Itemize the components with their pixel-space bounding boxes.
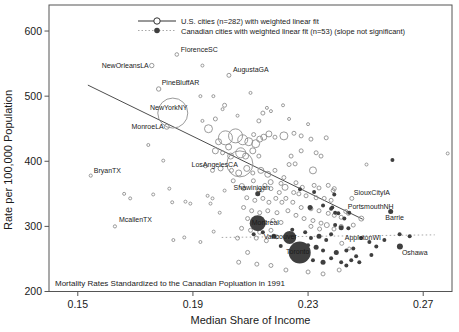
us-data-point — [279, 220, 283, 224]
x-tick-label: 0.19 — [183, 298, 204, 310]
y-tick-label: 300 — [24, 220, 42, 232]
us-data-point — [273, 135, 277, 139]
y-tick-label: 200 — [24, 285, 42, 297]
us-data-point — [288, 117, 291, 120]
us-data-point — [251, 179, 255, 183]
city-label: Barrie — [385, 214, 404, 221]
x-tick-label: 0.15 — [68, 298, 89, 310]
us-data-point — [236, 114, 239, 117]
ca-data-point — [333, 223, 337, 227]
ca-data-point — [347, 211, 351, 215]
us-data-point — [209, 202, 212, 205]
us-data-point — [306, 270, 310, 274]
us-data-point — [199, 95, 202, 98]
us-data-point — [171, 201, 174, 204]
us-data-point — [299, 149, 303, 153]
us-data-point — [291, 200, 295, 204]
ca-data-point — [334, 250, 339, 255]
us-data-point — [446, 152, 449, 155]
us-data-point — [282, 184, 288, 190]
ca-data-point — [342, 217, 346, 221]
us-data-point — [249, 228, 253, 232]
us-data-point — [227, 73, 231, 77]
ca-data-point — [332, 192, 336, 196]
ca-data-point — [344, 263, 348, 267]
us-data-point — [318, 227, 322, 231]
ca-data-point — [336, 211, 340, 215]
y-tick-label: 500 — [24, 90, 42, 102]
us-data-point — [236, 236, 240, 240]
us-data-point — [242, 206, 246, 210]
us-data-point — [286, 209, 290, 213]
us-data-point — [317, 186, 321, 190]
us-data-point — [253, 198, 257, 202]
ca-data-point — [382, 238, 386, 242]
ca-data-point — [374, 245, 378, 249]
us-data-point — [251, 171, 255, 175]
us-data-point — [326, 183, 330, 187]
us-data-point — [213, 117, 217, 121]
us-data-point — [280, 132, 288, 140]
us-data-point — [212, 230, 215, 233]
us-data-point — [302, 217, 306, 221]
us-data-point — [237, 260, 241, 264]
us-data-point — [324, 223, 329, 228]
ca-data-point — [317, 234, 322, 239]
us-data-point — [269, 263, 273, 267]
us-data-point — [255, 262, 259, 266]
ca-data-point — [339, 260, 343, 264]
ca-data-point — [312, 190, 316, 194]
us-data-point — [175, 53, 179, 57]
us-data-point — [236, 170, 242, 176]
city-label: Toronto — [286, 248, 309, 255]
city-label: LosAngelesCA — [192, 161, 239, 169]
x-tick-label: 0.23 — [298, 298, 319, 310]
us-data-point — [294, 213, 298, 217]
us-data-point — [250, 209, 254, 213]
us-data-point — [269, 228, 273, 232]
us-data-point — [365, 163, 368, 166]
us-data-point — [229, 129, 243, 143]
us-data-point — [129, 197, 132, 200]
us-data-point — [211, 168, 215, 172]
us-data-point — [147, 143, 150, 146]
legend-ca-marker — [154, 28, 160, 34]
us-data-point — [201, 119, 204, 122]
us-data-point — [274, 196, 278, 200]
y-tick-label: 400 — [24, 155, 42, 167]
us-data-point — [89, 174, 92, 177]
us-data-point — [322, 196, 326, 200]
legend-us-label: U.S. cities (n=282) with weighted linear… — [181, 17, 320, 26]
us-data-point — [221, 108, 224, 111]
us-data-point — [212, 95, 215, 98]
us-data-point — [245, 196, 249, 200]
us-data-point — [304, 194, 308, 198]
ca-data-point — [321, 204, 325, 208]
us-data-point — [309, 224, 313, 228]
us-data-point — [123, 192, 126, 195]
us-data-point — [113, 225, 116, 228]
city-label: McallenTX — [119, 216, 152, 223]
ca-data-point — [346, 226, 350, 230]
us-data-point — [257, 154, 261, 158]
us-data-point — [212, 148, 218, 154]
us-data-point — [261, 111, 265, 115]
us-data-point — [249, 91, 252, 94]
ca-data-point — [308, 205, 313, 210]
us-data-point — [269, 110, 272, 113]
ca-data-point — [357, 260, 361, 264]
city-label: NewYorkNY — [150, 104, 188, 111]
us-data-point — [282, 104, 285, 107]
us-data-point — [150, 63, 154, 67]
us-data-point — [273, 168, 277, 172]
us-data-point — [189, 202, 192, 205]
us-data-point — [236, 148, 246, 158]
us-data-point — [231, 179, 235, 183]
us-data-point — [252, 133, 256, 137]
us-data-point — [279, 181, 283, 185]
us-data-point — [261, 196, 265, 200]
us-data-point — [172, 239, 175, 242]
ca-data-point — [344, 248, 348, 252]
us-data-point — [319, 154, 323, 158]
us-data-point — [314, 151, 318, 155]
